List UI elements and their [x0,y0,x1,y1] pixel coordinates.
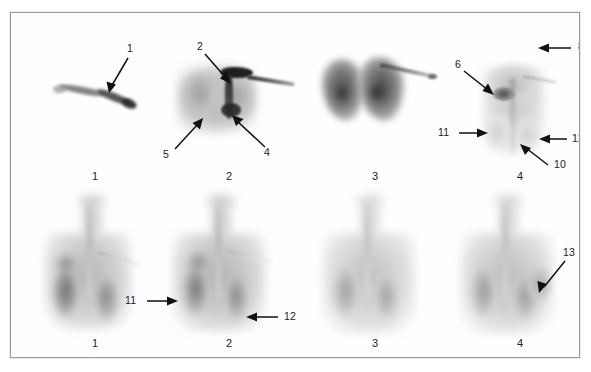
arrow-12 [243,311,281,323]
annotation-label-10: 10 [554,159,566,170]
annotation-label-11: 11 [125,295,136,306]
left-renal-focus [333,269,359,317]
annotation-label-1: 1 [127,43,133,54]
scan-image-bottom-1 [35,191,165,331]
caption-top-4: 4 [508,171,532,182]
scan-image-top-3 [306,43,446,163]
spine-column [364,203,371,299]
uptake-streak-proximal [53,84,68,93]
left-renal-focus [53,269,79,317]
midline-vertical-track [511,79,514,153]
left-upper-focus [187,251,209,273]
annotation-label-12: 12 [284,311,296,322]
spine-column [215,203,222,299]
left-renal-focus [471,269,497,317]
top-panel-2: 2 5 4 [151,31,301,171]
bottom-panel-4: 13 [451,191,580,333]
bottom-panel-3 [311,191,451,333]
bottom-panel-1 [35,191,165,331]
right-renal-focus [373,275,399,321]
scan-image-bottom-3 [311,191,451,333]
lung-hot-spot-right [368,83,386,103]
figure-plate: 1 2 [10,12,580,358]
bottom-panel-2: 11 12 [163,191,313,333]
annotation-label-13: 13 [563,247,575,258]
arrow-11 [457,127,493,139]
caption-bottom-3: 3 [363,338,387,349]
top-panel-1: 1 [41,43,161,163]
top-panel-4: 8 6 11 12 10 [431,27,580,172]
arrow-8 [535,41,577,55]
caption-top-2: 2 [217,171,241,182]
right-renal-focus [93,277,119,321]
spine-column [86,203,93,299]
annotation-label-11: 11 [438,127,449,138]
left-upper-focus [55,253,77,275]
caption-bottom-2: 2 [217,338,241,349]
arrow-6 [461,69,503,99]
annotation-label-12: 12 [572,133,580,144]
arrow-1 [97,53,137,101]
annotation-label-8: 8 [578,41,580,52]
caption-top-1: 1 [83,171,107,182]
annotation-label-2: 2 [197,41,203,52]
arrow-2 [201,51,243,89]
arrow-13 [531,257,571,299]
annotation-label-4: 4 [264,147,270,158]
annotation-label-6: 6 [455,59,461,70]
caption-top-3: 3 [363,171,387,182]
annotation-label-5: 5 [163,149,169,160]
lung-hot-spot-left [334,85,350,103]
arrow-5 [171,113,217,153]
arrow-10 [515,143,553,169]
spine-column [502,203,509,299]
top-panel-3 [306,43,446,163]
caption-bottom-4: 4 [508,338,532,349]
caption-bottom-1: 1 [83,338,107,349]
scintigraphy-figure: 1 2 [0,0,591,372]
left-renal-focus [183,267,209,315]
arrow-4 [223,111,271,151]
arrow-11 [145,295,183,307]
